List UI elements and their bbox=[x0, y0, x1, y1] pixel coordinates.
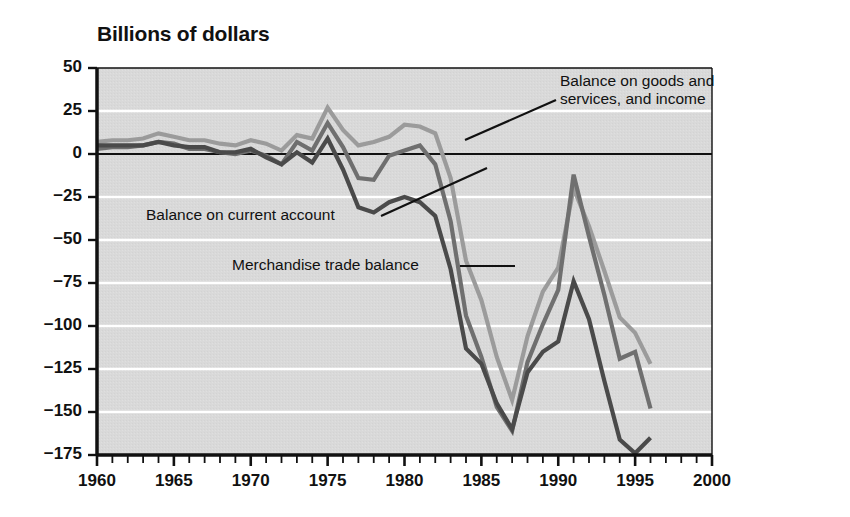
line-chart-plot bbox=[0, 0, 850, 517]
x-tick-label: 1995 bbox=[600, 471, 670, 491]
y-tick-label: −100 bbox=[22, 315, 82, 335]
annotation-merchandise-trade-balance: Merchandise trade balance bbox=[232, 256, 419, 274]
x-tick-label: 1990 bbox=[523, 471, 593, 491]
x-tick-label: 1975 bbox=[293, 471, 363, 491]
x-tick-label: 1985 bbox=[446, 471, 516, 491]
x-tick-label: 1960 bbox=[62, 471, 132, 491]
y-tick-label: −75 bbox=[22, 272, 82, 292]
y-tick-label: −175 bbox=[22, 444, 82, 464]
y-tick-label: 25 bbox=[22, 100, 82, 120]
y-tick-label: 50 bbox=[22, 57, 82, 77]
x-tick-label: 2000 bbox=[677, 471, 747, 491]
x-tick-label: 1965 bbox=[139, 471, 209, 491]
chart-figure: Billions of dollars 50250−25−50−75−100−1… bbox=[0, 0, 850, 517]
y-tick-label: −150 bbox=[22, 401, 82, 421]
x-tick-label: 1980 bbox=[370, 471, 440, 491]
y-tick-label: 0 bbox=[22, 143, 82, 163]
y-tick-label: −25 bbox=[22, 186, 82, 206]
y-tick-label: −50 bbox=[22, 229, 82, 249]
annotation-balance-current-account: Balance on current account bbox=[146, 206, 335, 224]
annotation-balance-goods-services-income: Balance on goods and services, and incom… bbox=[560, 72, 714, 109]
y-tick-label: −125 bbox=[22, 358, 82, 378]
x-tick-label: 1970 bbox=[216, 471, 286, 491]
